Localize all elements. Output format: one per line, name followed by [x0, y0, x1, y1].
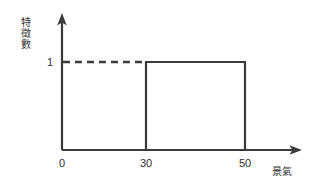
chart-figure: 1 0 30 50 特 徵 數 景氣 [0, 0, 321, 190]
chart-canvas: 1 0 30 50 [0, 0, 321, 190]
y-tick-label-1: 1 [47, 56, 53, 68]
y-axis-title: 特 徵 數 [18, 17, 34, 50]
x-tick-label-50: 50 [239, 157, 251, 169]
y-axis-title-char-3: 數 [18, 39, 34, 50]
y-axis-title-char-1: 特 [18, 17, 34, 28]
x-tick-label-30: 30 [140, 157, 152, 169]
x-tick-label-0: 0 [59, 157, 65, 169]
y-axis-title-char-2: 徵 [18, 28, 34, 39]
x-axis-title: 景氣 [272, 163, 292, 178]
